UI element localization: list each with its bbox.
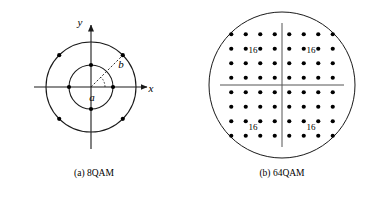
- constellation-point: [287, 32, 291, 36]
- constellation-point: [229, 105, 233, 109]
- constellation-point: [258, 90, 262, 94]
- constellation-point: [244, 105, 248, 109]
- constellation-point: [229, 119, 233, 123]
- constellation-point: [316, 105, 320, 109]
- panel-64qam: 16 16 16 16: [209, 12, 355, 158]
- constellation-point: [273, 32, 277, 36]
- constellation-point: [316, 76, 320, 80]
- constellation-point: [258, 47, 262, 51]
- constellation-point: [302, 119, 306, 123]
- quadrant-label-bottom-right: 16: [307, 122, 317, 132]
- outer-radius-label-b: b: [118, 58, 124, 70]
- x-axis-label: x: [148, 82, 154, 94]
- constellation-point: [258, 61, 262, 65]
- constellation-point: [302, 47, 306, 51]
- constellation-point: [229, 32, 233, 36]
- y-axis-label: y: [77, 16, 83, 28]
- constellation-point-inner: [89, 107, 93, 111]
- constellation-point: [331, 32, 335, 36]
- constellation-point: [331, 105, 335, 109]
- constellation-point: [244, 76, 248, 80]
- quadrant-label-top-right: 16: [307, 45, 317, 55]
- constellation-point: [258, 134, 262, 138]
- constellation-point-outer: [121, 53, 125, 57]
- constellation-point: [273, 76, 277, 80]
- constellation-point: [287, 119, 291, 123]
- constellation-point: [244, 47, 248, 51]
- constellation-point-outer: [121, 117, 125, 121]
- constellation-point: [287, 76, 291, 80]
- constellation-point: [229, 76, 233, 80]
- constellation-point: [273, 134, 277, 138]
- constellation-point: [244, 134, 248, 138]
- constellation-point: [273, 61, 277, 65]
- quadrant-label-top-left: 16: [249, 45, 259, 55]
- constellation-point: [287, 90, 291, 94]
- constellation-point: [302, 105, 306, 109]
- constellation-point: [331, 134, 335, 138]
- constellation-point: [316, 90, 320, 94]
- constellation-point: [316, 134, 320, 138]
- angle-arc: [101, 77, 105, 87]
- constellation-point: [331, 119, 335, 123]
- constellation-point: [287, 47, 291, 51]
- constellation-point: [229, 47, 233, 51]
- constellation-point: [316, 119, 320, 123]
- constellation-point: [244, 90, 248, 94]
- constellation-point: [229, 134, 233, 138]
- constellation-point-inner: [67, 85, 71, 89]
- constellation-point: [273, 47, 277, 51]
- constellation-point: [302, 76, 306, 80]
- constellation-point: [287, 105, 291, 109]
- quadrant-label-bottom-left: 16: [249, 122, 259, 132]
- constellation-point: [273, 90, 277, 94]
- caption-panel-b: (b) 64QAM: [188, 168, 376, 178]
- constellation-point: [331, 90, 335, 94]
- constellation-point: [229, 61, 233, 65]
- constellation-point: [331, 47, 335, 51]
- constellation-point: [287, 61, 291, 65]
- constellation-point: [273, 105, 277, 109]
- constellation-point: [302, 61, 306, 65]
- constellation-point: [316, 47, 320, 51]
- constellation-point: [316, 32, 320, 36]
- constellation-point: [302, 32, 306, 36]
- constellation-point: [229, 90, 233, 94]
- constellation-point: [273, 119, 277, 123]
- constellation-point-inner: [111, 85, 115, 89]
- constellation-point: [258, 105, 262, 109]
- constellation-point: [258, 76, 262, 80]
- constellation-point: [258, 32, 262, 36]
- constellation-point: [244, 61, 248, 65]
- inner-radius-label-a: a: [89, 91, 95, 103]
- constellation-point-outer: [57, 53, 61, 57]
- constellation-point: [331, 61, 335, 65]
- constellation-point: [302, 134, 306, 138]
- constellation-point: [331, 76, 335, 80]
- constellation-point: [258, 119, 262, 123]
- constellation-point: [287, 134, 291, 138]
- constellation-point-outer: [57, 117, 61, 121]
- panel-8qam: y x a b: [34, 16, 154, 149]
- constellation-point-inner: [89, 63, 93, 67]
- caption-panel-a: (a) 8QAM: [0, 168, 188, 178]
- figure-container: y x a b: [0, 0, 376, 201]
- constellation-point: [316, 61, 320, 65]
- constellation-point: [302, 90, 306, 94]
- constellation-point: [244, 119, 248, 123]
- constellation-point: [244, 32, 248, 36]
